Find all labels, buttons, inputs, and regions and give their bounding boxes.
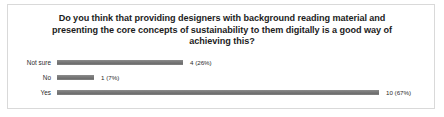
- category-label-no: No: [8, 73, 51, 83]
- bar-row: Not sure 4 (26%): [8, 58, 434, 68]
- bar-value-not-sure: 4 (26%): [190, 58, 212, 68]
- bar-not-sure[interactable]: [57, 60, 183, 65]
- bar-track-yes: 10 (67%): [57, 88, 434, 98]
- bar-value-yes: 10 (67%): [386, 88, 411, 98]
- chart-title-line-3: achieving this?: [34, 36, 410, 48]
- category-label-yes: Yes: [8, 88, 51, 98]
- plot-area: Not sure 4 (26%) No 1 (7%) Yes 10 (67%): [8, 58, 434, 102]
- chart-frame: Do you think that providing designers wi…: [7, 4, 435, 109]
- category-label-not-sure: Not sure: [8, 58, 51, 68]
- chart-title-line-2: presenting the core concepts of sustaina…: [34, 25, 410, 37]
- bar-yes[interactable]: [57, 90, 379, 95]
- chart-title: Do you think that providing designers wi…: [34, 13, 410, 48]
- bar-value-no: 1 (7%): [101, 73, 119, 83]
- chart-title-line-1: Do you think that providing designers wi…: [34, 13, 410, 25]
- bar-track-not-sure: 4 (26%): [57, 58, 434, 68]
- bar-row: No 1 (7%): [8, 73, 434, 83]
- bar-no[interactable]: [57, 75, 94, 80]
- bar-track-no: 1 (7%): [57, 73, 434, 83]
- bar-row: Yes 10 (67%): [8, 88, 434, 98]
